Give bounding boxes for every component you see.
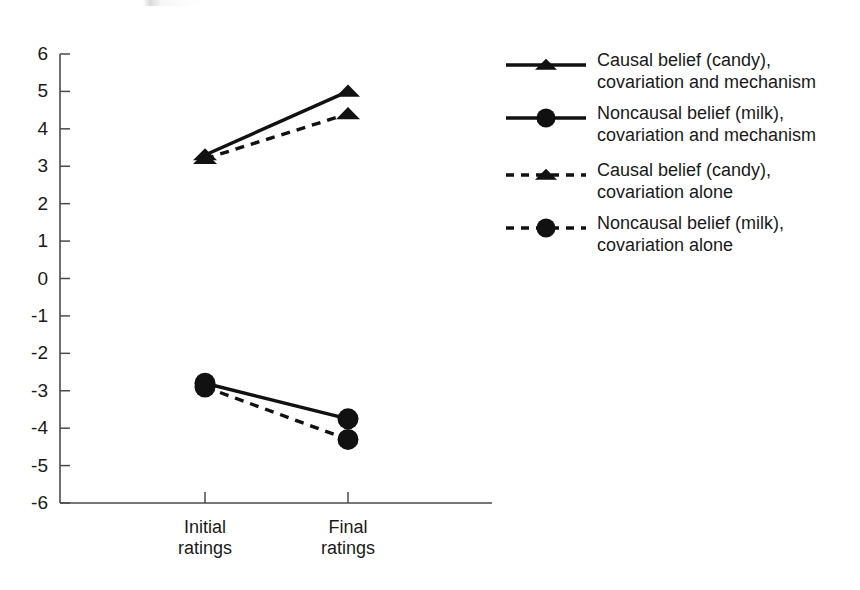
legend-label: Noncausal belief (milk),covariation alon… <box>597 213 855 256</box>
figure: 6543210-1-2-3-4-5-6 InitialratingsFinalr… <box>0 0 860 590</box>
series-layer <box>193 85 360 450</box>
legend-sample <box>500 213 592 243</box>
circle-marker <box>537 219 556 238</box>
y-tick-label: -5 <box>8 456 48 475</box>
legend-label: Noncausal belief (milk),covariation and … <box>597 103 855 146</box>
legend-entry: Noncausal belief (milk),covariation alon… <box>500 213 855 265</box>
legend-label-line2: covariation and mechanism <box>597 125 855 147</box>
legend-sample-svg <box>500 50 592 80</box>
legend-label-line1: Causal belief (candy), <box>597 160 855 182</box>
y-tick-label: -2 <box>8 343 48 362</box>
x-tick-label: Initialratings <box>125 517 285 559</box>
legend-label-line1: Noncausal belief (milk), <box>597 103 855 125</box>
y-tick-label: 1 <box>8 231 48 250</box>
legend-sample-svg <box>500 103 592 133</box>
x-tick-label: Finalratings <box>268 517 428 559</box>
legend-entry: Causal belief (candy),covariation and me… <box>500 50 855 102</box>
series-line <box>205 383 348 419</box>
x-tick-label-line2: ratings <box>268 538 428 559</box>
legend-label-line1: Causal belief (candy), <box>597 50 855 72</box>
legend-label-line2: covariation alone <box>597 235 855 257</box>
y-tick-label: 3 <box>8 156 48 175</box>
legend-entry: Causal belief (candy),covariation alone <box>500 160 855 212</box>
triangle-marker <box>336 107 360 119</box>
legend-label-line2: covariation and mechanism <box>597 72 855 94</box>
legend-entry: Noncausal belief (milk),covariation and … <box>500 103 855 155</box>
legend-sample <box>500 50 592 80</box>
circle-marker <box>537 109 556 128</box>
legend-label: Causal belief (candy),covariation alone <box>597 160 855 203</box>
y-tick-label: 6 <box>8 44 48 63</box>
series-line <box>205 91 348 155</box>
series-circle-solid <box>195 373 359 430</box>
axes <box>60 54 492 503</box>
y-tick-label: -6 <box>8 493 48 512</box>
circle-marker <box>338 429 359 450</box>
y-tick-label: 4 <box>8 119 48 138</box>
circle-marker <box>195 377 216 398</box>
y-axis-ticks <box>60 54 70 503</box>
y-tick-label: 5 <box>8 81 48 100</box>
x-tick-label-line1: Final <box>268 517 428 538</box>
legend-sample-svg <box>500 160 592 190</box>
y-tick-label: 2 <box>8 194 48 213</box>
circle-marker <box>338 408 359 429</box>
series-triangle-dashed <box>193 107 360 164</box>
legend-sample <box>500 160 592 190</box>
y-tick-label: -4 <box>8 418 48 437</box>
legend-label: Causal belief (candy),covariation and me… <box>597 50 855 93</box>
y-tick-label: 0 <box>8 269 48 288</box>
series-line <box>205 114 348 159</box>
y-tick-label: -3 <box>8 381 48 400</box>
triangle-marker <box>336 85 360 97</box>
legend-sample-svg <box>500 213 592 243</box>
x-tick-label-line2: ratings <box>125 538 285 559</box>
legend-sample <box>500 103 592 133</box>
x-tick-label-line1: Initial <box>125 517 285 538</box>
y-tick-label: -1 <box>8 306 48 325</box>
x-axis-ticks <box>205 492 348 503</box>
series-triangle-solid <box>193 85 360 161</box>
legend-label-line2: covariation alone <box>597 182 855 204</box>
legend-label-line1: Noncausal belief (milk), <box>597 213 855 235</box>
